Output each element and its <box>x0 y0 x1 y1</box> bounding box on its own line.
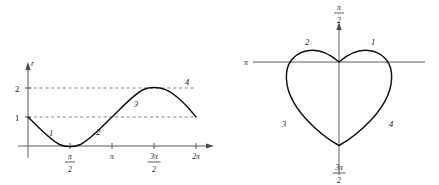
svg-text:2: 2 <box>152 165 156 174</box>
y-tick-label-1: 1 <box>15 113 19 123</box>
svg-text:2: 2 <box>337 16 341 25</box>
r-axis-arrowhead <box>25 62 30 70</box>
polar-label-pi-over-2: π 2 <box>334 3 344 25</box>
cartesian-segment-label-1: 1 <box>49 128 53 138</box>
x-tick-label-pi-over-2: π 2 <box>65 152 75 174</box>
cartesian-plot: r 2 1 π 2 π 3π 2 2π 1 2 3 <box>0 0 225 185</box>
x-tick-label-2pi: 2π <box>192 152 200 161</box>
polar-plot: π 2 π 3π 2 1 2 3 4 <box>225 0 439 185</box>
cartesian-svg: r 2 1 π 2 π 3π 2 2π 1 2 3 <box>0 0 225 185</box>
y-tick-label-2: 2 <box>15 84 19 94</box>
x-tick-label-pi: π <box>110 152 114 161</box>
svg-text:π: π <box>337 3 341 12</box>
polar-segment-label-2: 2 <box>305 37 310 47</box>
svg-text:3π: 3π <box>149 152 158 161</box>
polar-segment-label-4: 4 <box>389 119 394 129</box>
polar-segment-label-1: 1 <box>371 37 375 47</box>
svg-text:π: π <box>68 152 72 161</box>
svg-text:2: 2 <box>68 165 72 174</box>
r-axis-label: r <box>31 59 35 68</box>
svg-text:2: 2 <box>337 176 341 185</box>
cartesian-segment-label-4: 4 <box>185 77 190 87</box>
x-tick-label-3pi-over-2: 3π 2 <box>148 152 161 174</box>
svg-text:3π: 3π <box>334 163 343 172</box>
polar-label-pi: π <box>244 58 248 67</box>
polar-segment-label-3: 3 <box>281 119 286 129</box>
theta-axis-arrowhead <box>206 143 214 148</box>
polar-svg: π 2 π 3π 2 1 2 3 4 <box>225 0 439 185</box>
cartesian-segment-label-3: 3 <box>133 99 138 109</box>
figure-container: r 2 1 π 2 π 3π 2 2π 1 2 3 <box>0 0 439 185</box>
